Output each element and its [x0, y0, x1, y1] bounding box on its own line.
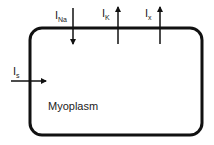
- ik-current: IK: [102, 7, 118, 44]
- ina-current: INa: [55, 8, 73, 44]
- svg-text:INa: INa: [55, 9, 67, 23]
- ina-subscript: Na: [58, 16, 67, 23]
- svg-text:Is: Is: [13, 65, 20, 79]
- ik-subscript: K: [105, 14, 110, 21]
- is-subscript: s: [16, 72, 20, 79]
- svg-text:IK: IK: [102, 7, 110, 21]
- svg-text:Ix: Ix: [145, 7, 152, 21]
- myoplasm-label: Myoplasm: [48, 100, 98, 112]
- ix-subscript: x: [148, 14, 152, 21]
- cell-diagram: INa IK Ix Is Myoplasm: [0, 0, 214, 145]
- ix-current: Ix: [145, 7, 160, 44]
- myoplasm-compartment: [30, 28, 202, 135]
